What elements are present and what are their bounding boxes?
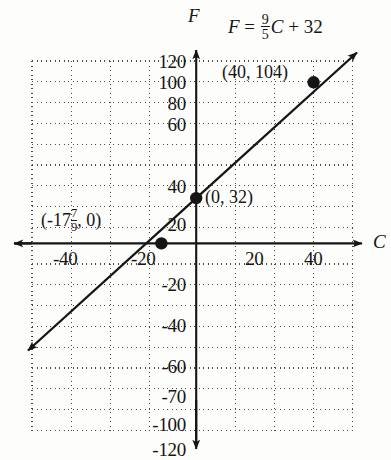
equation-variable: C: [271, 16, 284, 37]
x-tick-label-40: 40: [304, 249, 322, 268]
y-tick-label-neg-20: -20: [136, 275, 186, 294]
y-tick-label-neg-70: -70: [136, 387, 186, 406]
point-40-104: [307, 76, 319, 88]
y-axis-label-f: F: [188, 6, 200, 25]
x-tick-label-neg-20: -20: [131, 249, 155, 268]
equation-lhs: F: [228, 16, 240, 37]
y-tick-label-neg-120: -120: [128, 440, 186, 459]
y-tick-label-100: 100: [140, 73, 186, 92]
equation-label: F = 9 5 C + 32: [228, 12, 323, 42]
equation-fraction-numerator: 9: [261, 12, 270, 26]
coordinate-plane-figure: 120 100 80 60 40 20 -20 -40 -60 -70 -100…: [0, 0, 391, 460]
x-axis-label-c: C: [373, 232, 386, 251]
y-tick-label-20: 20: [140, 215, 186, 234]
y-tick-label-120: 120: [140, 52, 186, 71]
point-y-intercept: [190, 192, 202, 204]
y-tick-label-60: 60: [140, 115, 186, 134]
x-tick-label-20: 20: [245, 249, 263, 268]
y-tick-label-neg-100: -100: [128, 415, 186, 434]
x-intercept-close-paren: , 0): [77, 210, 101, 230]
y-tick-label-neg-60: -60: [136, 357, 186, 376]
x-tick-label-neg-40: -40: [53, 249, 77, 268]
x-intercept-whole: -17: [47, 210, 71, 230]
equation-plus: +: [288, 16, 299, 37]
grid-lines: [32, 61, 355, 432]
y-tick-label-neg-40: -40: [136, 316, 186, 335]
point-label-40-104: (40, 104): [222, 63, 288, 81]
equation-equals: =: [244, 16, 255, 37]
y-tick-label-80: 80: [140, 94, 186, 113]
equation-fraction: 9 5: [261, 12, 270, 42]
point-label-0-32: (0, 32): [205, 188, 253, 206]
y-tick-label-40: 40: [140, 177, 186, 196]
point-x-intercept: [155, 237, 167, 249]
equation-constant: 32: [304, 16, 323, 37]
equation-fraction-denominator: 5: [261, 26, 270, 41]
point-label-x-intercept: (-17 7 9 , 0): [41, 207, 101, 234]
